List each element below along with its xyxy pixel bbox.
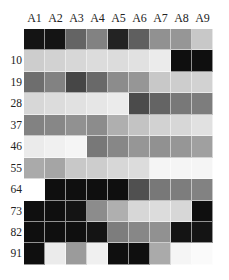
heatmap-cell <box>129 29 150 50</box>
heatmap-cell <box>45 243 66 264</box>
heatmap-cell <box>129 136 150 157</box>
heatmap-cell <box>24 93 45 114</box>
heatmap-cell <box>66 179 87 200</box>
heatmap-cell <box>45 72 66 93</box>
heatmap-cell <box>87 201 108 222</box>
heatmap-cell <box>171 222 192 243</box>
column-label: A7 <box>150 10 171 26</box>
heatmap-cell <box>45 201 66 222</box>
heatmap-cell <box>192 136 213 157</box>
row-label: 55 <box>0 158 22 179</box>
heatmap-cell <box>171 72 192 93</box>
heatmap-cell <box>192 201 213 222</box>
heatmap-cell <box>108 50 129 71</box>
heatmap-cell <box>192 158 213 179</box>
heatmap-cell <box>45 222 66 243</box>
row-label: 10 <box>0 50 22 71</box>
heatmap-cell <box>45 50 66 71</box>
column-label: A9 <box>192 10 213 26</box>
heatmap-cell <box>150 50 171 71</box>
heatmap-cell <box>24 136 45 157</box>
row-label: 64 <box>0 179 22 200</box>
heatmap-cell <box>108 243 129 264</box>
column-label: A4 <box>87 10 108 26</box>
heatmap-cell <box>24 201 45 222</box>
heatmap-cell <box>150 243 171 264</box>
heatmap-cell <box>66 243 87 264</box>
heatmap-cell <box>129 243 150 264</box>
row-label: 28 <box>0 93 22 114</box>
heatmap-cell <box>108 115 129 136</box>
row-label: 82 <box>0 222 22 243</box>
heatmap-cell <box>192 50 213 71</box>
heatmap-cell <box>66 29 87 50</box>
heatmap-cell <box>129 201 150 222</box>
heatmap-cell <box>150 158 171 179</box>
heatmap-cell <box>66 136 87 157</box>
heatmap-cell <box>45 158 66 179</box>
heatmap-cell <box>108 222 129 243</box>
column-label: A6 <box>129 10 150 26</box>
heatmap-cell <box>87 29 108 50</box>
heatmap-cell <box>87 158 108 179</box>
heatmap-cell <box>171 243 192 264</box>
heatmap-cell <box>87 136 108 157</box>
heatmap-cell <box>45 93 66 114</box>
heatmap-cell <box>45 179 66 200</box>
heatmap-cell <box>150 136 171 157</box>
heatmap-cell <box>150 179 171 200</box>
heatmap-cell <box>108 201 129 222</box>
heatmap-cell <box>108 72 129 93</box>
heatmap-cell <box>45 29 66 50</box>
column-label: A5 <box>108 10 129 26</box>
heatmap-cell <box>129 72 150 93</box>
heatmap-cell <box>108 158 129 179</box>
row-label: 19 <box>0 72 22 93</box>
heatmap-cell <box>24 50 45 71</box>
heatmap-cell <box>45 136 66 157</box>
heatmap-cell <box>66 158 87 179</box>
heatmap-cell <box>87 243 108 264</box>
heatmap-cell <box>129 179 150 200</box>
heatmap-cell <box>87 93 108 114</box>
heatmap-cell <box>24 115 45 136</box>
heatmap-cell <box>108 179 129 200</box>
heatmap-cell <box>108 93 129 114</box>
row-label: 73 <box>0 201 22 222</box>
heatmap-cell <box>171 158 192 179</box>
heatmap-cell <box>66 93 87 114</box>
heatmap-cell <box>108 136 129 157</box>
heatmap-cell <box>171 50 192 71</box>
heatmap-cell <box>129 93 150 114</box>
heatmap-cell <box>129 115 150 136</box>
heatmap-cell <box>171 136 192 157</box>
heatmap-cell <box>45 115 66 136</box>
heatmap-cell <box>129 50 150 71</box>
row-label: 37 <box>0 115 22 136</box>
heatmap-cell <box>24 29 45 50</box>
row-labels: 10192837465564738291 <box>0 29 22 265</box>
column-label: A2 <box>45 10 66 26</box>
heatmap-cell <box>150 201 171 222</box>
heatmap-cell <box>192 93 213 114</box>
heatmap-cell <box>150 93 171 114</box>
heatmap-cell <box>24 222 45 243</box>
heatmap-cell <box>87 50 108 71</box>
heatmap-cell <box>24 179 45 200</box>
heatmap-cell <box>171 29 192 50</box>
heatmap-cell <box>129 222 150 243</box>
row-label <box>0 29 22 50</box>
heatmap-cell <box>150 115 171 136</box>
heatmap-cell <box>171 93 192 114</box>
heatmap-cell <box>171 115 192 136</box>
heatmap-cell <box>87 115 108 136</box>
heatmap-cell <box>192 243 213 264</box>
heatmap-cell <box>108 29 129 50</box>
column-labels: A1A2A3A4A5A6A7A8A9 <box>24 10 213 26</box>
row-label: 91 <box>0 243 22 264</box>
heatmap-cell <box>66 50 87 71</box>
heatmap-cell <box>171 201 192 222</box>
heatmap-cell <box>129 158 150 179</box>
heatmap-cell <box>24 243 45 264</box>
heatmap-cell <box>87 72 108 93</box>
